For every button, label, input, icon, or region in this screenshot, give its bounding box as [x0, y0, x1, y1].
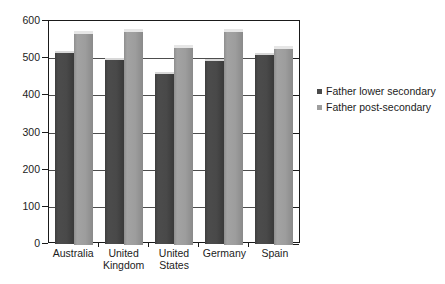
bar-face	[124, 29, 143, 245]
bar-face	[55, 51, 74, 244]
bar	[155, 72, 174, 242]
bar-face	[74, 31, 93, 245]
y-tick-mark-0	[42, 243, 48, 244]
x-axis-label-line: Spain	[250, 248, 300, 260]
y-tick-label-600: 600	[6, 15, 40, 26]
bar	[74, 31, 93, 242]
bar	[124, 29, 143, 242]
x-axis-label-line: Kingdom	[98, 260, 148, 272]
y-tick-label-400: 400	[6, 89, 40, 100]
bar	[105, 58, 124, 242]
bar	[274, 46, 293, 242]
y-tick-mark-right-500	[293, 58, 299, 59]
x-axis-label-united-states: UnitedStates	[149, 248, 199, 271]
bar-face	[174, 45, 193, 245]
legend-swatch-icon	[317, 105, 322, 110]
y-axis: 6005004003002001000	[0, 20, 40, 243]
bar-group	[99, 21, 149, 242]
y-tick-mark-right-0	[293, 244, 299, 245]
x-axis-label-line: Germany	[199, 248, 249, 260]
x-axis-label-line: United	[149, 248, 199, 260]
legend-item[interactable]: Father lower secondary	[317, 85, 441, 98]
y-tick-label-0: 0	[6, 238, 40, 249]
bar-chart-figure: 6005004003002001000 AustraliaUnitedKingd…	[0, 0, 445, 284]
y-tick-mark-right-100	[293, 207, 299, 208]
bar-face	[155, 72, 174, 244]
x-axis-label-line: United	[98, 248, 148, 260]
bar-face	[224, 29, 243, 245]
bar	[255, 53, 274, 242]
bar-face	[205, 59, 224, 244]
x-tick-mark	[148, 242, 149, 247]
bar-group	[49, 21, 99, 242]
x-tick-mark	[98, 242, 99, 247]
bar-group	[149, 21, 199, 242]
y-tick-label-200: 200	[6, 163, 40, 174]
x-axis-label-line: Australia	[48, 248, 98, 260]
x-axis-labels: AustraliaUnitedKingdomUnitedStatesGerman…	[48, 248, 300, 271]
x-axis-label-line: States	[149, 260, 199, 272]
bar-series-container	[49, 21, 299, 242]
legend-swatch-icon	[317, 89, 322, 94]
bar	[174, 45, 193, 242]
bar	[205, 59, 224, 242]
x-tick-mark	[248, 242, 249, 247]
legend-label: Father lower secondary	[326, 86, 436, 97]
x-axis-label-united-kingdom: UnitedKingdom	[98, 248, 148, 271]
x-axis-label-spain: Spain	[250, 248, 300, 271]
bar-face	[255, 53, 274, 244]
y-tick-mark-right-400	[293, 95, 299, 96]
chart-legend: Father lower secondaryFather post-second…	[317, 85, 441, 117]
y-tick-mark-right-300	[293, 133, 299, 134]
plot-area	[48, 20, 300, 243]
x-tick-mark	[198, 242, 199, 247]
bar	[224, 29, 243, 242]
legend-label: Father post-secondary	[326, 102, 431, 113]
x-axis-label-australia: Australia	[48, 248, 98, 271]
y-tick-label-100: 100	[6, 201, 40, 212]
x-axis-label-germany: Germany	[199, 248, 249, 271]
bar-group	[249, 21, 299, 242]
bar	[55, 51, 74, 242]
bar-group	[199, 21, 249, 242]
y-tick-label-500: 500	[6, 52, 40, 63]
bar-face	[105, 58, 124, 244]
y-tick-mark-right-200	[293, 170, 299, 171]
y-tick-label-300: 300	[6, 126, 40, 137]
legend-item[interactable]: Father post-secondary	[317, 101, 441, 114]
bar-face	[274, 46, 293, 245]
